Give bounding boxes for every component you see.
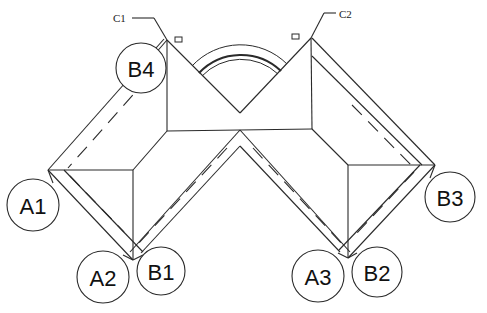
bubble-a3: A3 (292, 250, 344, 302)
bubble-a2-label: A2 (90, 266, 117, 291)
bubble-b2: B2 (352, 247, 402, 297)
bubble-b3-label: B3 (437, 186, 464, 211)
roof-plan-drawing: C1 C2 B4 A1 A2 B1 A3 B2 B3 (0, 0, 487, 313)
bubble-b1-label: B1 (148, 260, 175, 285)
callout-c1-label: C1 (113, 12, 126, 24)
bubble-b2-label: B2 (364, 261, 391, 286)
marker-square-c2 (292, 34, 299, 39)
central-upper-frame (167, 38, 312, 131)
bubble-a1-label: A1 (20, 194, 47, 219)
arch-arc (192, 45, 287, 76)
bubble-b1: B1 (137, 247, 185, 295)
marker-square-c1 (175, 37, 182, 42)
callout-c2: C2 (311, 8, 352, 38)
bubble-a3-label: A3 (305, 265, 332, 290)
diagram-canvas: C1 C2 B4 A1 A2 B1 A3 B2 B3 (0, 0, 487, 313)
central-lower-chevron (130, 130, 350, 253)
bubble-a2: A2 (77, 251, 129, 303)
callout-c1: C1 (113, 12, 167, 40)
right-wing (312, 38, 435, 258)
bubble-b4-label: B4 (128, 57, 155, 82)
callout-c2-label: C2 (339, 8, 352, 20)
bubble-a1: A1 (7, 179, 59, 231)
bubble-b4: B4 (116, 43, 166, 93)
bubble-b3: B3 (425, 172, 475, 222)
